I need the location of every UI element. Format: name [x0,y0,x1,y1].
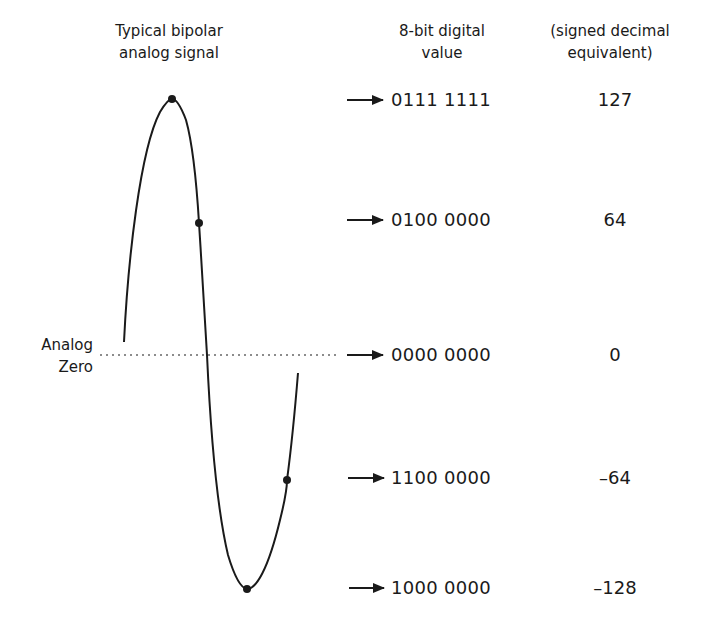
digital-code-64: 0100 0000 [391,209,491,231]
decimal-value-127: 127 [560,89,670,111]
sample-point-neg64 [283,476,291,484]
decimal-value-neg128: –128 [560,577,670,599]
digital-code-127: 0111 1111 [391,89,491,111]
decimal-value-64: 64 [560,209,670,231]
decimal-value-neg64: –64 [560,467,670,489]
digital-code-neg128: 1000 0000 [391,577,491,599]
analog-waveform [124,99,298,589]
digital-code-0: 0000 0000 [391,344,491,366]
digital-code-neg64: 1100 0000 [391,467,491,489]
sample-point-64 [195,219,203,227]
decimal-value-0: 0 [560,344,670,366]
sample-point-neg128 [243,585,251,593]
sample-point-127 [168,95,176,103]
